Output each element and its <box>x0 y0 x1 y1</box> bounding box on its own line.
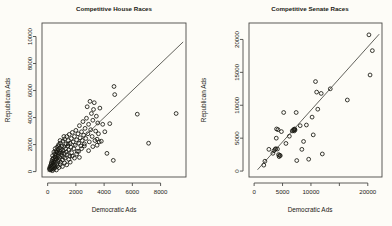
senate-y-tick-label: 20000 <box>233 30 240 48</box>
data-point <box>87 149 91 153</box>
data-point <box>91 118 95 122</box>
house-x-tick-label: 0 <box>46 188 50 195</box>
data-point <box>78 156 82 160</box>
data-point <box>280 130 284 134</box>
figure-container: Competitive House Races Democratic Ads R… <box>0 0 392 226</box>
house-x-ticks: 02000400060008000 <box>46 183 168 195</box>
data-point <box>310 115 314 119</box>
house-y-tick-label: 10000 <box>26 27 33 45</box>
data-point <box>112 85 116 89</box>
house-y-ticks: 0200040006000800010000 <box>26 27 36 173</box>
senate-reference-line <box>258 34 380 170</box>
house-y-tick-label: 6000 <box>26 83 33 97</box>
data-point <box>267 147 271 151</box>
data-point <box>91 145 95 149</box>
house-y-tick-label: 4000 <box>26 110 33 124</box>
house-reference-line <box>48 42 184 172</box>
panel-senate-races: Competitive Senate Races Democratic Ads … <box>196 0 392 226</box>
house-x-tick-label: 6000 <box>126 188 140 195</box>
data-point <box>81 120 85 124</box>
data-point <box>319 92 323 96</box>
senate-chart-title: Competitive Senate Races <box>271 5 349 12</box>
data-point <box>320 152 324 156</box>
data-point <box>94 114 98 118</box>
data-point <box>88 99 92 103</box>
data-point <box>345 98 349 102</box>
data-point <box>97 132 101 136</box>
house-y-tick-label: 8000 <box>26 56 33 70</box>
data-point <box>368 73 372 77</box>
data-point <box>113 93 117 97</box>
house-x-tick-label: 4000 <box>97 188 111 195</box>
data-point <box>87 140 91 144</box>
data-point <box>96 121 100 125</box>
data-point <box>294 111 298 115</box>
data-point <box>98 106 102 110</box>
data-point <box>87 122 91 126</box>
senate-plot-frame <box>249 23 382 177</box>
senate-x-axis-label: Democratic Ads <box>288 206 333 213</box>
data-point <box>90 112 94 116</box>
data-point <box>135 112 139 116</box>
data-point <box>92 101 96 105</box>
house-y-tick-label: 0 <box>26 169 33 173</box>
senate-x-tick-label: 10000 <box>302 188 320 195</box>
panel-house-races: Competitive House Races Democratic Ads R… <box>0 0 196 226</box>
data-point <box>85 116 89 120</box>
data-point <box>84 137 88 141</box>
house-y-tick-label: 2000 <box>26 137 33 151</box>
senate-x-tick-label: 0 <box>252 188 256 195</box>
data-point <box>282 111 286 115</box>
data-point <box>311 133 315 137</box>
data-point <box>370 49 374 53</box>
data-point <box>316 107 320 111</box>
data-point <box>302 140 306 144</box>
data-point <box>86 132 90 136</box>
senate-x-ticks: 050001000020000 <box>252 183 376 195</box>
data-point <box>89 128 93 132</box>
data-point <box>174 112 178 116</box>
house-data-points <box>47 85 178 173</box>
senate-x-tick-label: 5000 <box>276 188 290 195</box>
senate-y-axis-label: Republican Ads <box>200 78 208 122</box>
data-point <box>315 90 319 94</box>
data-point <box>111 158 115 162</box>
data-point <box>284 142 288 146</box>
senate-y-ticks: 05000100001500020000 <box>233 30 243 172</box>
house-x-tick-label: 2000 <box>69 188 83 195</box>
data-point <box>367 33 371 37</box>
house-x-axis-label: Democratic Ads <box>92 206 137 213</box>
data-point <box>78 124 82 128</box>
senate-data-points <box>262 33 374 167</box>
senate-y-tick-label: 10000 <box>233 96 240 114</box>
data-point <box>147 141 151 145</box>
data-point <box>274 136 278 140</box>
data-point <box>101 122 105 126</box>
senate-y-tick-label: 0 <box>233 169 240 173</box>
house-races-scatter-plot: Competitive House Races Democratic Ads R… <box>0 0 196 226</box>
senate-x-tick-label: 20000 <box>359 188 377 195</box>
data-point <box>105 151 109 155</box>
data-point <box>307 157 311 161</box>
data-point <box>85 105 89 109</box>
data-point <box>83 126 87 130</box>
data-point <box>295 159 299 163</box>
house-y-axis-label: Republican Ads <box>4 78 12 122</box>
data-point <box>314 80 318 84</box>
senate-races-scatter-plot: Competitive Senate Races Democratic Ads … <box>196 0 392 226</box>
data-point <box>92 108 96 112</box>
senate-y-tick-label: 5000 <box>233 131 240 145</box>
data-point <box>103 130 107 134</box>
house-x-tick-label: 8000 <box>154 188 168 195</box>
house-chart-title: Competitive House Races <box>76 5 153 12</box>
data-point <box>300 147 304 151</box>
data-point <box>108 122 112 126</box>
data-point <box>305 123 309 127</box>
data-point <box>90 135 94 139</box>
senate-y-tick-label: 15000 <box>233 63 240 81</box>
data-point <box>298 124 302 128</box>
